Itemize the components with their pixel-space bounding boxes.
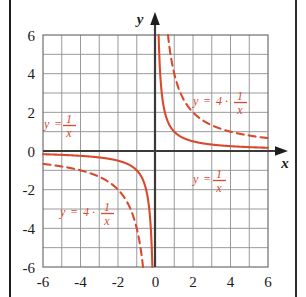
x-tick-label: 2	[189, 274, 197, 290]
y-axis-arrowhead	[150, 12, 160, 25]
curve-annotation-reciprocal-lower-right: y = 1 x	[192, 167, 226, 195]
x-tick-label: 6	[264, 274, 272, 290]
annotation-numerator: 1	[216, 167, 222, 181]
annotation-denominator: x	[65, 126, 72, 140]
annotation-multiplication-dot: ·	[225, 94, 228, 108]
x-tick-label: -2	[112, 274, 125, 290]
annotation-lhs: y	[59, 205, 66, 219]
y-tick-label: 2	[28, 105, 36, 121]
annotation-lhs: y	[43, 117, 50, 131]
curve-annotation-four-over-x-lower-left: y = 4 · 1 x	[59, 200, 114, 228]
annotation-coefficient: 4	[216, 94, 222, 108]
annotation-equals: =	[70, 205, 78, 219]
curve-annotation-reciprocal-upper-left: y = 1 x	[43, 112, 76, 140]
annotation-equals: =	[203, 94, 211, 108]
annotation-numerator: 1	[237, 89, 243, 103]
graph-svg: y x -6-4-20246 -6-4-20246 y = 1 x y = 4 …	[0, 0, 306, 297]
annotation-numerator: 1	[104, 200, 110, 214]
annotation-equals: =	[54, 117, 62, 131]
curve-four-over-x-positive-branch	[168, 35, 268, 138]
annotation-multiplication-dot: ·	[92, 205, 95, 219]
x-tick-label: 4	[227, 274, 235, 290]
annotation-numerator: 1	[66, 112, 72, 126]
y-tick-label: -2	[23, 182, 36, 198]
annotation-denominator: x	[103, 214, 110, 228]
y-tick-label: 4	[28, 66, 36, 82]
annotation-lhs: y	[192, 172, 199, 186]
x-tick-label: 0	[152, 274, 160, 290]
annotation-denominator: x	[215, 181, 222, 195]
annotation-denominator: x	[236, 103, 243, 117]
curve-one-over-x-positive-branch	[159, 35, 268, 148]
annotation-equals: =	[203, 172, 211, 186]
annotation-coefficient: 4	[83, 205, 89, 219]
y-tick-label: 6	[28, 28, 36, 44]
figure-root: y x -6-4-20246 -6-4-20246 y = 1 x y = 4 …	[0, 0, 306, 297]
y-tick-labels: -6-4-20246	[23, 28, 36, 276]
y-tick-label: 0	[28, 144, 36, 160]
annotation-lhs: y	[192, 94, 199, 108]
y-axis-label: y	[135, 11, 144, 27]
x-axis-label: x	[280, 155, 289, 171]
x-tick-label: -6	[37, 274, 50, 290]
graph-figure: y x -6-4-20246 -6-4-20246 y = 1 x y = 4 …	[0, 0, 306, 297]
x-tick-label: -4	[74, 274, 87, 290]
y-tick-label: -6	[23, 260, 36, 276]
x-tick-labels: -6-4-20246	[37, 274, 273, 290]
y-tick-label: -4	[23, 221, 36, 237]
